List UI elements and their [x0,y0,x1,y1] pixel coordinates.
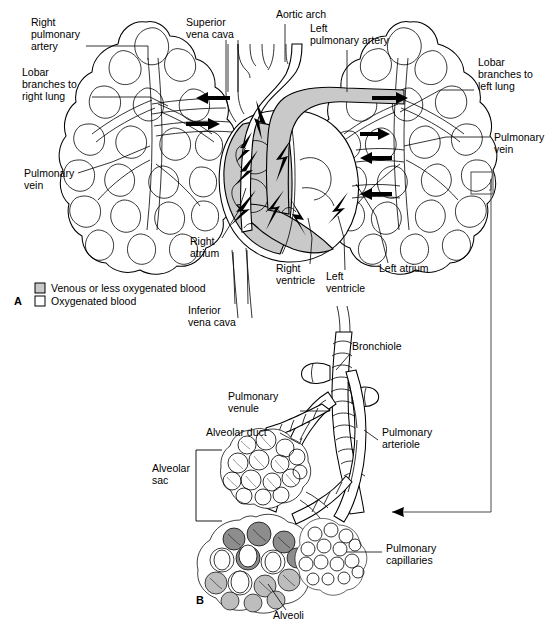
label-aortic-arch: Aortic arch [276,8,326,20]
panel-letter-b: B [196,594,204,606]
label-right-atrium: Right atrium [190,235,219,259]
legend-swatch-oxygenated [35,296,45,306]
panel-letter-a: A [14,295,22,307]
label-alveolar-duct: Alveolar duct [206,426,267,438]
label-left-atrium: Left atrium [379,262,429,274]
anatomical-figure: Right pulmonary artery Lobar branches to… [0,0,557,627]
label-pulmonary-capillaries: Pulmonary capillaries [386,542,439,566]
label-superior-vena-cava: Superior vena cava [186,16,234,40]
legend-swatch-venous [35,283,45,293]
legend-label-oxygenated: Oxygenated blood [51,295,136,307]
legend-label-venous: Venous or less oxygenated blood [51,282,206,294]
label-alveoli: Alveoli [273,609,304,621]
label-bronchiole: Bronchiole [352,340,402,352]
pulmonary-circulation-svg: Right pulmonary artery Lobar branches to… [0,0,557,627]
